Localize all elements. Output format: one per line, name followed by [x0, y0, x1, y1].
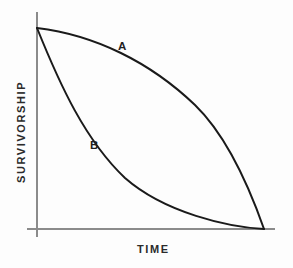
curve-label-a: A	[118, 40, 126, 52]
survivorship-curve-figure: A B SURVIVORSHIP TIME	[0, 0, 293, 268]
curve-b-path	[37, 28, 264, 229]
y-axis-title: SURVIVORSHIP	[15, 81, 27, 183]
curve-label-b: B	[90, 139, 98, 151]
curve-a-path	[37, 28, 264, 229]
x-axis-title: TIME	[137, 243, 170, 255]
